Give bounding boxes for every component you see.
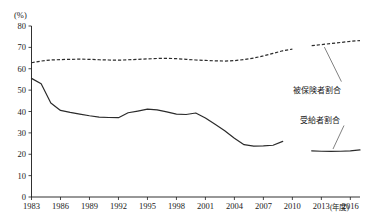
x-axis-tick-label: 1992 [110, 201, 127, 211]
x-axis-tick-label: 2004 [226, 201, 244, 211]
y-axis-tick-label: 60 [18, 64, 27, 74]
x-axis-tick-group: 1983198619891992199519982001200420072010… [23, 197, 359, 211]
x-axis-tick-label: 1998 [168, 201, 185, 211]
x-axis-tick-label: 1995 [139, 201, 156, 211]
series-path-recipient-seg0 [32, 78, 283, 146]
legend-leader-insured-icon [324, 47, 341, 82]
y-axis-tick-label: 40 [18, 107, 27, 117]
y-axis-tick-label: 80 [18, 21, 27, 31]
series-path-insured-seg1 [312, 41, 360, 46]
legend-label-recipient: 受給者割合 [300, 115, 340, 125]
y-axis-tick-label: 30 [18, 128, 27, 138]
x-axis-tick-label: 2007 [255, 201, 272, 211]
x-axis-tick-label: 1986 [52, 201, 69, 211]
y-axis-tick-label: 20 [18, 149, 27, 159]
series-path-recipient-seg1 [312, 150, 360, 152]
legend-recipient: 受給者割合 [300, 115, 344, 149]
series-path-insured-seg0 [32, 49, 293, 63]
line-chart: (%) 01020304050607080 198319861989199219… [0, 0, 370, 221]
y-axis-tick-label: 50 [18, 85, 27, 95]
legend-label-insured: 被保険者割合 [293, 85, 341, 95]
legend-insured: 被保険者割合 [293, 47, 341, 95]
x-axis-tick-label: 1983 [23, 201, 40, 211]
y-axis-unit-label: (%) [14, 10, 27, 20]
y-axis-tick-group: 01020304050607080 [18, 21, 32, 202]
chart-container: (%) 01020304050607080 198319861989199219… [0, 0, 370, 221]
x-axis-tick-label: 1989 [81, 201, 98, 211]
series-group [32, 41, 361, 152]
x-axis-unit-label: (年度) [330, 202, 349, 212]
legend-leader-recipient-icon [333, 126, 344, 150]
y-axis-tick-label: 10 [18, 171, 27, 181]
x-axis-tick-label: 2013 [313, 201, 330, 211]
x-axis-tick-label: 2001 [197, 201, 214, 211]
y-axis-tick-label: 70 [18, 42, 27, 52]
x-axis-tick-label: 2010 [284, 201, 301, 211]
